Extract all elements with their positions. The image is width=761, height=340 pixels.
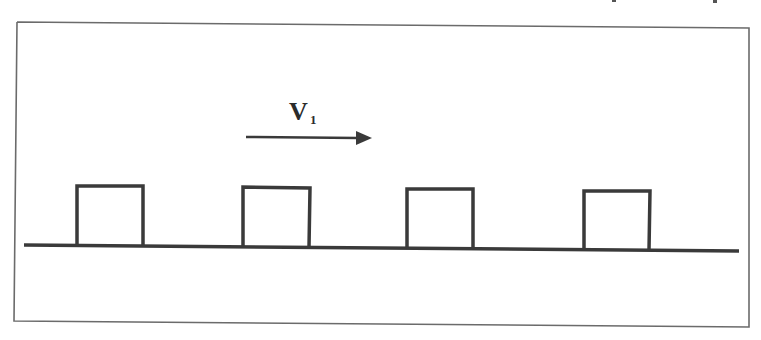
velocity-label: V 1 bbox=[289, 97, 317, 127]
svg-text:V: V bbox=[289, 97, 308, 126]
figure-frame bbox=[14, 22, 749, 327]
block-3 bbox=[407, 189, 473, 248]
block-1 bbox=[77, 186, 143, 245]
block-4 bbox=[584, 191, 650, 250]
velocity-symbol: V bbox=[289, 97, 308, 126]
diagram-canvas: V 1 bbox=[0, 0, 761, 340]
velocity-subscript: 1 bbox=[310, 112, 317, 127]
block-2 bbox=[243, 187, 310, 247]
ground-line bbox=[24, 245, 739, 251]
clipped-text-fragment bbox=[612, 0, 717, 3]
velocity-arrow-icon bbox=[246, 131, 372, 145]
